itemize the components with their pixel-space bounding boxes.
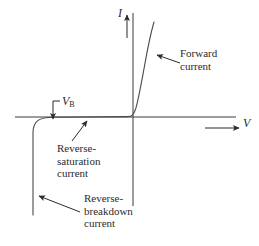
voltage-axis-label: V bbox=[243, 117, 250, 130]
forward-current-leader bbox=[157, 55, 180, 63]
reverse-breakdown-label-line1: Reverse- bbox=[84, 192, 133, 205]
forward-current-label-line2: current bbox=[180, 60, 217, 73]
reverse-saturation-label-line1: Reverse- bbox=[57, 142, 100, 155]
forward-current-label-line1: Forward bbox=[180, 47, 217, 60]
reverse-saturation-label: Reverse- saturation current bbox=[57, 142, 100, 180]
reverse-breakdown-label-line2: breakdown bbox=[84, 205, 133, 218]
reverse-saturation-label-line2: saturation bbox=[57, 155, 100, 168]
diode-iv-curve bbox=[33, 22, 154, 215]
forward-current-label: Forward current bbox=[180, 47, 217, 72]
reverse-breakdown-label: Reverse- breakdown current bbox=[84, 192, 133, 230]
breakdown-voltage-subscript: B bbox=[69, 100, 74, 109]
reverse-saturation-leader bbox=[72, 121, 87, 141]
reverse-breakdown-leader bbox=[39, 196, 80, 212]
reverse-saturation-label-line3: current bbox=[57, 167, 100, 180]
reverse-breakdown-label-line3: current bbox=[84, 217, 133, 230]
current-axis-label: I bbox=[118, 7, 122, 20]
breakdown-voltage-label: VB bbox=[62, 95, 75, 112]
diode-iv-characteristic-figure: I V VB Forward current Reverse- saturati… bbox=[0, 0, 259, 246]
